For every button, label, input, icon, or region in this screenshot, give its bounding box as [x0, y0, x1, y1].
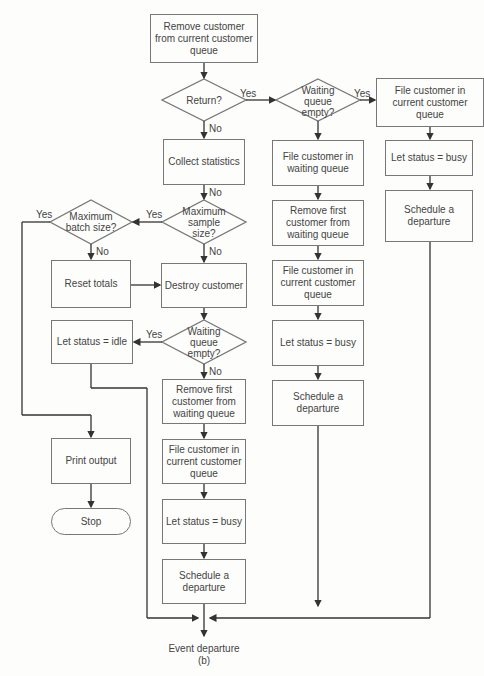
node-text: Let status = busy [280, 337, 356, 349]
node-text: File customer in waiting queue [275, 151, 361, 175]
yes-label: Yes [146, 329, 162, 340]
schedule-low-box: Schedule a departure [162, 559, 246, 604]
reset-totals-box: Reset totals [51, 260, 131, 308]
node-text: Collect statistics [168, 156, 240, 168]
node-text: Reset totals [65, 278, 118, 290]
node-text: Schedule a departure [275, 391, 361, 415]
file-current-low-box: File customer in current customer queue [162, 439, 246, 484]
let-busy-right-box: Let status = busy [385, 140, 473, 176]
node-text: File customer in current customer queue [165, 444, 243, 480]
let-busy-low-box: Let status = busy [162, 499, 246, 544]
let-idle-box: Let status = idle [51, 320, 133, 364]
node-text: Maximum batch size? [65, 211, 117, 233]
node-text: File customer in current customer queue [379, 85, 481, 121]
node-text: Remove first customer from waiting queue [275, 205, 361, 241]
waiting-empty-top-text: Waiting queue empty? [292, 84, 344, 118]
node-text: File customer in current customer queue [275, 265, 361, 301]
node-text: Let status = idle [57, 336, 127, 348]
node-text: Let status = busy [166, 516, 242, 528]
node-text: Schedule a departure [388, 204, 470, 228]
no-label: No [209, 187, 222, 198]
node-text: Return? [186, 95, 222, 106]
yes-label: Yes [354, 88, 370, 99]
schedule-right-box: Schedule a departure [385, 190, 473, 242]
collect-statistics-box: Collect statistics [163, 139, 245, 185]
print-output-box: Print output [51, 438, 131, 484]
node-text: Maximum sample size? [178, 206, 230, 239]
file-waiting-box: File customer in waiting queue [272, 140, 364, 186]
return-decision-text: Return? [170, 92, 238, 108]
node-text: Print output [65, 455, 116, 467]
file-current-mid-box: File customer in current customer queue [272, 260, 364, 306]
destroy-customer-box: Destroy customer [161, 263, 247, 308]
remove-first-low-box: Remove first customer from waiting queue [162, 379, 246, 424]
diagram-subtitle: (b) [154, 655, 254, 667]
node-text: Destroy customer [165, 280, 243, 292]
node-text: Waiting queue empty? [178, 326, 230, 359]
waiting-empty-low-text: Waiting queue empty? [178, 325, 230, 359]
node-text: Stop [81, 516, 102, 528]
let-busy-mid-box: Let status = busy [272, 320, 364, 366]
file-current-right-box: File customer in current customer queue [376, 78, 484, 127]
yes-label: Yes [240, 88, 256, 99]
remove-first-mid-box: Remove first customer from waiting queue [272, 200, 364, 246]
stop-terminator: Stop [51, 508, 131, 535]
yes-label: Yes [146, 209, 162, 220]
diagram-caption: Event departure (b) [154, 643, 254, 667]
node-text: Remove first customer from waiting queue [165, 384, 243, 420]
no-label: No [96, 246, 109, 257]
node-text: Let status = busy [391, 152, 467, 164]
remove-current-box: Remove customer from current customer qu… [150, 14, 258, 63]
yes-label: Yes [36, 209, 52, 220]
node-text: Waiting queue empty? [292, 85, 344, 118]
max-sample-text: Maximum sample size? [178, 205, 230, 239]
schedule-mid-box: Schedule a departure [272, 380, 364, 426]
diagram-title: Event departure [154, 643, 254, 655]
node-text: Schedule a departure [165, 570, 243, 594]
no-label: No [209, 366, 222, 377]
no-label: No [209, 123, 222, 134]
no-label: No [209, 246, 222, 257]
node-text: Remove customer from current customer qu… [153, 21, 255, 57]
max-batch-text: Maximum batch size? [65, 205, 117, 239]
